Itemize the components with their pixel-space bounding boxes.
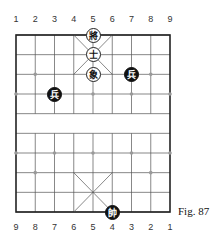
red-general-piece: 帥	[105, 205, 120, 220]
red-soldier-piece: 兵	[124, 67, 139, 82]
black-advisor-piece: 士	[86, 47, 101, 62]
figure-caption: Fig. 87	[178, 205, 209, 217]
black-general-piece: 將	[86, 28, 101, 43]
red-soldier-piece: 兵	[47, 87, 62, 102]
black-elephant-piece: 象	[86, 67, 101, 82]
